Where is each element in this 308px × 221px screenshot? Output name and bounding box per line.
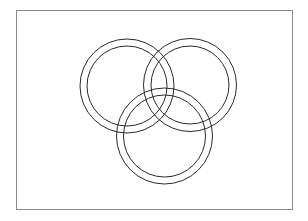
rings-group — [80, 39, 237, 185]
frame-border — [17, 11, 293, 210]
ring-bottom-inner-circle — [124, 95, 206, 177]
ring-top-right-outer-circle — [144, 39, 237, 132]
ring-top-left-inner-circle — [87, 46, 167, 126]
ring-bottom-outer-circle — [117, 88, 213, 184]
ring-bottom — [117, 88, 213, 184]
diagram-canvas — [0, 0, 308, 221]
ring-top-right-inner-circle — [151, 46, 229, 124]
ring-top-right — [144, 39, 237, 132]
